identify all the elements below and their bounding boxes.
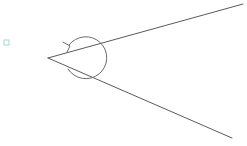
rotation-arc	[68, 37, 107, 79]
figure-canvas	[0, 0, 247, 146]
upper-ray	[48, 4, 243, 58]
rotation-arrowhead-icon	[63, 42, 70, 52]
lower-ray	[48, 58, 232, 138]
angle-rotation-diagram	[0, 0, 247, 146]
corner-marker-icon	[4, 40, 9, 45]
